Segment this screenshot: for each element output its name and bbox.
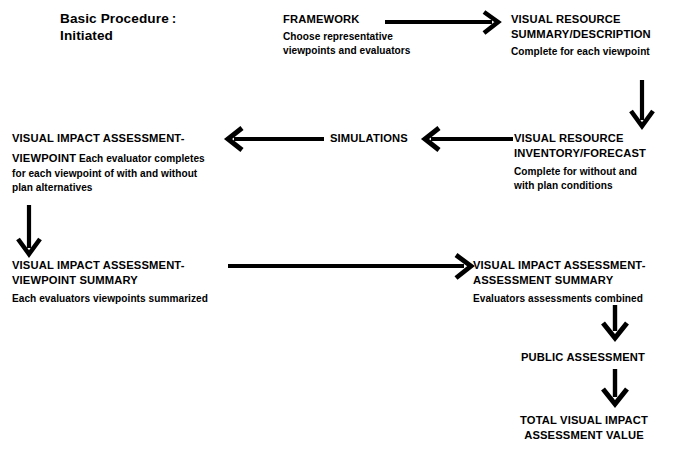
via-viewpoint-summary-desc-line-1: Each evaluators viewpoints summarized [12,292,208,306]
via-viewpoint-desc-line-3: plan alternatives [12,181,242,195]
via-viewpoint-summary-title-line-1: VISUAL IMPACT ASSESSMENT- [12,258,208,273]
simulations-title: SIMULATIONS [330,131,408,146]
via-viewpoint-summary-title-line-2: VIEWPOINT SUMMARY [12,273,208,288]
arrow-viewpoint-summary-to-assessment-summary [228,254,478,280]
heading-line-1: Basic Procedure [60,11,169,26]
node-via-viewpoint: VISUAL IMPACT ASSESSMENT- VIEWPOINT Each… [12,131,242,194]
heading-line-2: Initiated [60,28,113,43]
node-total-value: TOTAL VISUAL IMPACT ASSESSMENT VALUE [484,413,684,443]
visual-resource-inventory-title-line-2: INVENTORY/FORECAST [514,146,646,161]
visual-resource-inventory-title-line-1: VISUAL RESOURCE [514,131,646,146]
arrow-framework-to-summary [385,12,503,36]
via-assessment-summary-desc-line-1: Evaluators assessments combined [473,292,646,306]
arrow-inventory-to-simulations [421,128,517,152]
total-value-title-line-1: TOTAL VISUAL IMPACT [484,413,684,428]
via-viewpoint-title-line-1: VISUAL IMPACT ASSESSMENT- [12,131,242,146]
node-via-assessment-summary: VISUAL IMPACT ASSESSMENT- ASSESSMENT SUM… [473,258,646,306]
visual-resource-summary-desc-line-1: Complete for each viewpoint [511,45,651,59]
node-visual-resource-summary: VISUAL RESOURCE SUMMARY/DESCRIPTION Comp… [511,12,651,59]
arrow-viewpoint-to-viewpoint-summary [14,205,44,260]
total-value-title-line-2: ASSESSMENT VALUE [484,428,684,443]
visual-resource-inventory-desc-line-1: Complete for without and [514,165,646,179]
arrow-summary-to-inventory [627,80,657,130]
via-viewpoint-desc-line-2: for each viewpoint of with and without [12,167,242,181]
via-viewpoint-desc-inline: Each evaluator completes [79,153,205,164]
via-viewpoint-title-line-2: VIEWPOINT [12,152,76,164]
visual-resource-inventory-desc-line-2: with plan conditions [514,179,646,193]
via-assessment-summary-title-line-1: VISUAL IMPACT ASSESSMENT- [473,258,646,273]
public-assessment-title: PUBLIC ASSESSMENT [521,350,645,365]
visual-resource-summary-title-line-1: VISUAL RESOURCE [511,12,651,27]
flowchart-diagram: Basic Procedure: Initiated FRAMEWORK Cho… [0,0,691,458]
arrow-public-to-total-value [600,369,630,411]
arrow-assessment-summary-to-public [600,305,630,345]
node-simulations: SIMULATIONS [330,131,408,146]
node-public-assessment: PUBLIC ASSESSMENT [521,350,645,365]
diagram-heading: Basic Procedure: Initiated [60,10,176,45]
visual-resource-summary-title-line-2: SUMMARY/DESCRIPTION [511,27,651,42]
node-via-viewpoint-summary: VISUAL IMPACT ASSESSMENT- VIEWPOINT SUMM… [12,258,208,306]
framework-desc-line-2: viewpoints and evaluators [283,44,410,58]
node-visual-resource-inventory: VISUAL RESOURCE INVENTORY/FORECAST Compl… [514,131,646,192]
via-assessment-summary-title-line-2: ASSESSMENT SUMMARY [473,273,646,288]
heading-colon: : [172,10,177,27]
